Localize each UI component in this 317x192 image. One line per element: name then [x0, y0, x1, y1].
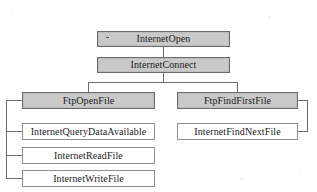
node-ftp-find-first-file-label: FtpFindFirstFile — [204, 96, 271, 106]
connector-branch-left-drop — [88, 82, 89, 92]
node-internet-open-label: InternetOpen — [137, 34, 191, 44]
paper-speck — [12, 10, 14, 12]
connector-branch-right-drop — [237, 82, 238, 92]
node-internet-find-next-file[interactable]: InternetFindNextFile — [177, 123, 298, 140]
node-internet-connect-label: InternetConnect — [131, 60, 197, 70]
node-ftp-open-file[interactable]: FtpOpenFile — [22, 92, 155, 109]
paper-speck — [240, 178, 243, 180]
connector-right-spine — [307, 100, 308, 132]
connector-left-stub-query — [6, 131, 22, 132]
paper-speck — [300, 170, 302, 172]
connector-branch-bus — [88, 82, 238, 83]
node-internet-write-file-label: InternetWriteFile — [53, 174, 124, 184]
connector-connect-stem — [163, 73, 164, 82]
node-internet-query-data-available[interactable]: InternetQueryDataAvailable — [22, 123, 155, 140]
paper-speck — [268, 16, 271, 18]
node-internet-read-file-label: InternetReadFile — [54, 151, 123, 161]
connector-right-stub-findnext — [298, 131, 308, 132]
connector-left-stub-write — [6, 178, 22, 179]
connector-left-stub-read — [6, 155, 22, 156]
node-internet-read-file[interactable]: InternetReadFile — [22, 147, 155, 164]
node-internet-query-data-available-label: InternetQueryDataAvailable — [31, 127, 147, 137]
leader-dot-marker — [106, 37, 109, 38]
node-internet-find-next-file-label: InternetFindNextFile — [194, 127, 280, 137]
node-internet-connect[interactable]: InternetConnect — [97, 57, 230, 73]
diagram-canvas: InternetOpen InternetConnect FtpOpenFile… — [0, 0, 317, 192]
node-ftp-find-first-file[interactable]: FtpFindFirstFile — [177, 92, 298, 109]
node-ftp-open-file-label: FtpOpenFile — [63, 96, 115, 106]
node-internet-write-file[interactable]: InternetWriteFile — [22, 170, 155, 187]
node-internet-open[interactable]: InternetOpen — [97, 31, 230, 47]
connector-left-spine — [6, 100, 7, 179]
connector-left-stub-ftpopenfile — [6, 100, 22, 101]
connector-open-to-connect — [163, 47, 164, 57]
